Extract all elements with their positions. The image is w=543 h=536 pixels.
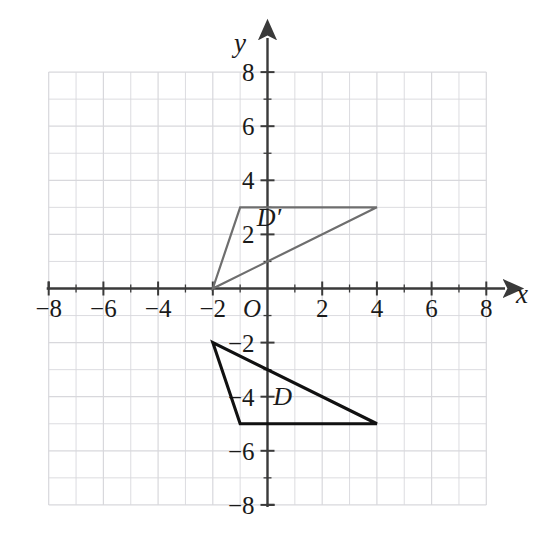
y-tick-label: −6 [228, 438, 255, 465]
x-tick-label: 2 [316, 295, 329, 322]
x-tick-label: −2 [199, 295, 226, 322]
y-axis-label: y [231, 28, 246, 58]
x-tick-label: −6 [90, 295, 117, 322]
shape-label-D: D [272, 382, 292, 411]
y-tick-label: 4 [242, 167, 255, 194]
x-tick-label: 8 [480, 295, 493, 322]
x-tick-label: −4 [145, 295, 172, 322]
origin-label: O [243, 295, 261, 322]
x-tick-label: 6 [425, 295, 438, 322]
y-tick-label: 2 [242, 221, 255, 248]
x-axis-label: x [515, 279, 528, 309]
axis-lines [47, 38, 505, 507]
x-tick-label: 4 [371, 295, 384, 322]
coordinate-plane-svg: −8−6−4−22468−8−6−4−22468 DD′ y x O [0, 0, 543, 536]
y-tick-label: 6 [242, 113, 255, 140]
shape-label-D-prime: D′ [256, 203, 282, 232]
y-tick-label: 8 [242, 59, 255, 86]
coordinate-plane-figure: −8−6−4−22468−8−6−4−22468 DD′ y x O [0, 0, 543, 536]
y-tick-label: −8 [228, 492, 255, 519]
x-tick-label: −8 [35, 295, 62, 322]
